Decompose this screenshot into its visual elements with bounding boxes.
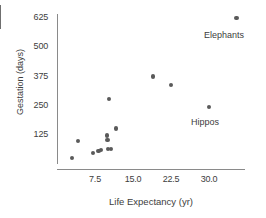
data-point	[234, 16, 238, 20]
data-point	[114, 126, 118, 130]
point-annotation: Hippos	[191, 117, 219, 127]
data-point	[76, 139, 80, 143]
data-point	[109, 147, 113, 151]
data-point	[99, 148, 103, 152]
scatter-chart: 625 500 375 250 125 7.5 15.0 22.5 30.0 G…	[0, 0, 266, 218]
data-point	[207, 105, 211, 109]
point-annotation: Elephants	[204, 30, 244, 40]
data-point	[107, 97, 111, 101]
data-point	[105, 138, 109, 142]
data-point	[91, 151, 95, 155]
data-point	[70, 156, 74, 160]
data-point	[151, 74, 155, 78]
data-point	[169, 83, 173, 87]
